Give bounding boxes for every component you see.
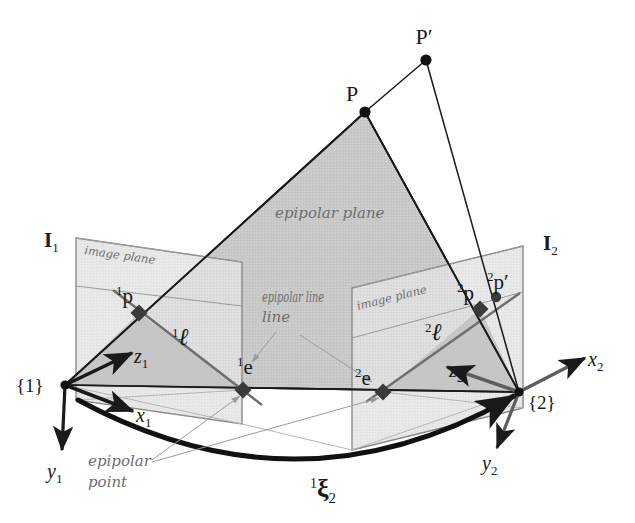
ray-P-to-Pprime (365, 60, 426, 112)
marker-scene-point-P (359, 106, 370, 117)
label-axis-y2: y2 (480, 452, 497, 478)
marker-frame1-origin (60, 380, 69, 389)
epipolar-geometry-diagram: P P′ epipolar plane epipolar line line e… (0, 0, 635, 523)
label-scene-point-P: P (346, 81, 358, 106)
label-axis-x2: x2 (587, 348, 603, 374)
label-axis-y1: y1 (45, 460, 62, 486)
label-epipolar-point-2: point (88, 473, 128, 491)
label-epipolar-line-1: epipolar line (262, 288, 324, 306)
label-pose-transform: 1ξ2 (310, 474, 336, 506)
marker-frame2-origin (514, 387, 523, 396)
axis-x2-arrow (519, 358, 585, 392)
label-image-frame-2: I2 (543, 231, 558, 258)
label-scene-point-Pprime: P′ (415, 24, 432, 49)
marker-scene-point-Pprime (420, 54, 431, 65)
axis-y1-arrow (62, 385, 65, 450)
label-frame-1: {1} (16, 375, 44, 396)
diagram-canvas: P P′ epipolar plane epipolar line line e… (0, 0, 635, 523)
label-epipolar-point-1: epipolar (88, 452, 152, 470)
label-epipolar-plane: epipolar plane (275, 204, 385, 222)
label-image-frame-1: I1 (44, 228, 59, 255)
label-frame-2: {2} (528, 392, 556, 413)
label-epipolar-line-2: line (262, 308, 290, 326)
